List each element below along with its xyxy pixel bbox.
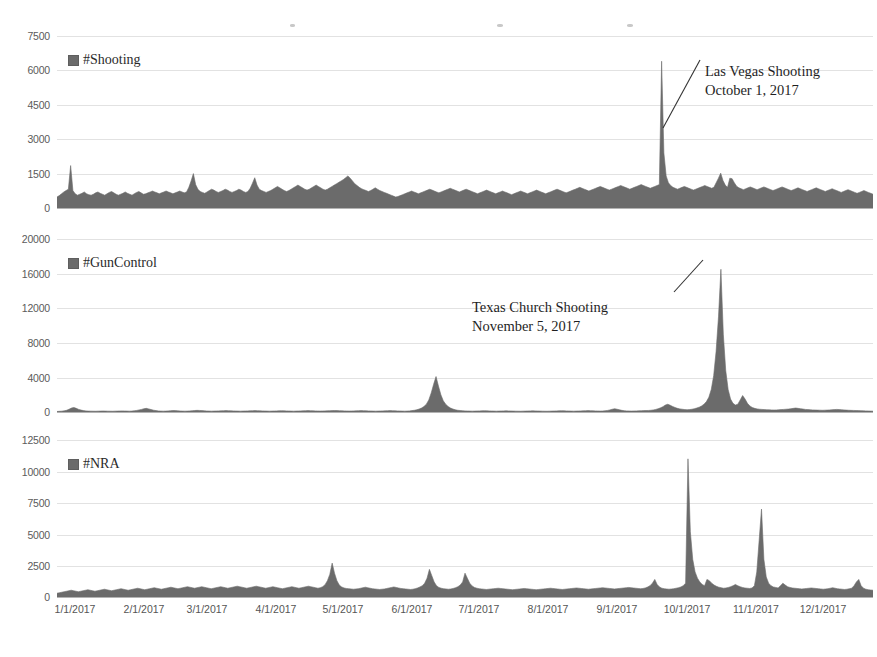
y-tick-label: 7500	[27, 30, 50, 42]
legend-marker-icon	[68, 55, 79, 66]
legend-marker-icon	[68, 459, 79, 470]
y-tick-label: 1500	[27, 168, 50, 180]
legend-label: #GunControl	[83, 255, 157, 271]
y-tick-label: 8000	[27, 337, 50, 349]
x-tick-label: 3/1/2017	[187, 603, 228, 615]
plot-area-shooting	[57, 0, 873, 222]
annotation-line-1: Texas Church Shooting	[472, 299, 608, 315]
y-tick-label: 16000	[22, 268, 50, 280]
legend-guncontrol: #GunControl	[68, 255, 157, 271]
legend-marker-icon	[68, 258, 79, 269]
legend-nra: #NRA	[68, 456, 120, 472]
annotation-line-2: October 1, 2017	[705, 81, 820, 100]
x-tick-label: 6/1/2017	[392, 603, 433, 615]
x-tick-label: 11/1/2017	[733, 603, 779, 615]
y-tick-label: 6000	[27, 64, 50, 76]
x-tick-label: 7/1/2017	[459, 603, 500, 615]
legend-shooting: #Shooting	[68, 52, 141, 68]
y-axis-nra: 12500 10000 7500 5000 2500 0	[0, 422, 56, 607]
plot-area-nra	[57, 422, 873, 607]
series-area-guncontrol	[57, 222, 873, 422]
x-tick-label: 9/1/2017	[597, 603, 638, 615]
y-tick-label: 20000	[22, 233, 50, 245]
x-tick-label: 1/1/2017	[55, 603, 96, 615]
y-axis-guncontrol: 20000 16000 12000 8000 4000 0	[0, 222, 56, 422]
annotation-texas-church: Texas Church Shooting November 5, 2017	[472, 298, 608, 336]
y-tick-label: 5000	[27, 529, 50, 541]
y-axis-shooting: 7500 6000 4500 3000 1500 0	[0, 0, 56, 222]
y-tick-label: 7500	[27, 497, 50, 509]
plot-area-guncontrol	[57, 222, 873, 422]
y-tick-label: 12000	[22, 302, 50, 314]
legend-label: #NRA	[83, 456, 120, 472]
figure-root: 7500 6000 4500 3000 1500 0 #Shooting Las…	[0, 0, 877, 657]
y-tick-label: 4500	[27, 99, 50, 111]
x-tick-label: 8/1/2017	[528, 603, 569, 615]
x-tick-label: 4/1/2017	[256, 603, 297, 615]
series-area-shooting	[57, 0, 873, 222]
chart-panel-guncontrol: 20000 16000 12000 8000 4000 0 #GunContro…	[0, 222, 877, 422]
y-tick-label: 3000	[27, 133, 50, 145]
annotation-las-vegas: Las Vegas Shooting October 1, 2017	[705, 62, 820, 100]
y-tick-label: 0	[44, 406, 50, 418]
x-tick-label: 5/1/2017	[323, 603, 364, 615]
y-tick-label: 12500	[22, 434, 50, 446]
y-tick-label: 10000	[22, 466, 50, 478]
y-tick-label: 2500	[27, 560, 50, 572]
x-tick-label: 10/1/2017	[664, 603, 711, 615]
series-area-nra	[57, 422, 873, 607]
x-tick-label: 12/1/2017	[800, 603, 847, 615]
legend-label: #Shooting	[83, 52, 141, 68]
y-tick-label: 0	[44, 202, 50, 214]
x-tick-label: 2/1/2017	[124, 603, 165, 615]
annotation-line-1: Las Vegas Shooting	[705, 63, 820, 79]
chart-panel-nra: 12500 10000 7500 5000 2500 0 #NRA	[0, 422, 877, 607]
y-tick-label: 0	[44, 591, 50, 603]
annotation-line-2: November 5, 2017	[472, 317, 608, 336]
x-axis: 1/1/2017 2/1/2017 3/1/2017 4/1/2017 5/1/…	[0, 603, 877, 627]
chart-panel-shooting: 7500 6000 4500 3000 1500 0 #Shooting Las…	[0, 0, 877, 222]
y-tick-label: 4000	[27, 372, 50, 384]
